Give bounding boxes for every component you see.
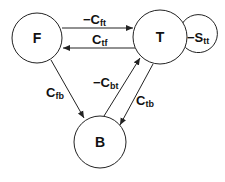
label-tb: Ctb [136,93,154,109]
node-F: F [12,13,62,63]
state-diagram: F T B −Cft Ctf Cfb −Cbt Ctb −Stt [0,0,225,182]
label-tf: Ctf [92,32,108,48]
node-F-label: F [33,30,42,46]
edge-F-B [51,60,84,118]
label-fb: Cfb [46,85,64,101]
node-B-label: B [95,134,105,150]
label-ft: −Cft [83,12,106,28]
label-tt: −Stt [187,30,209,46]
label-bt: −Cbt [93,75,118,91]
node-T-label: T [156,29,165,45]
node-B: B [74,116,126,168]
node-T: T [133,10,187,64]
